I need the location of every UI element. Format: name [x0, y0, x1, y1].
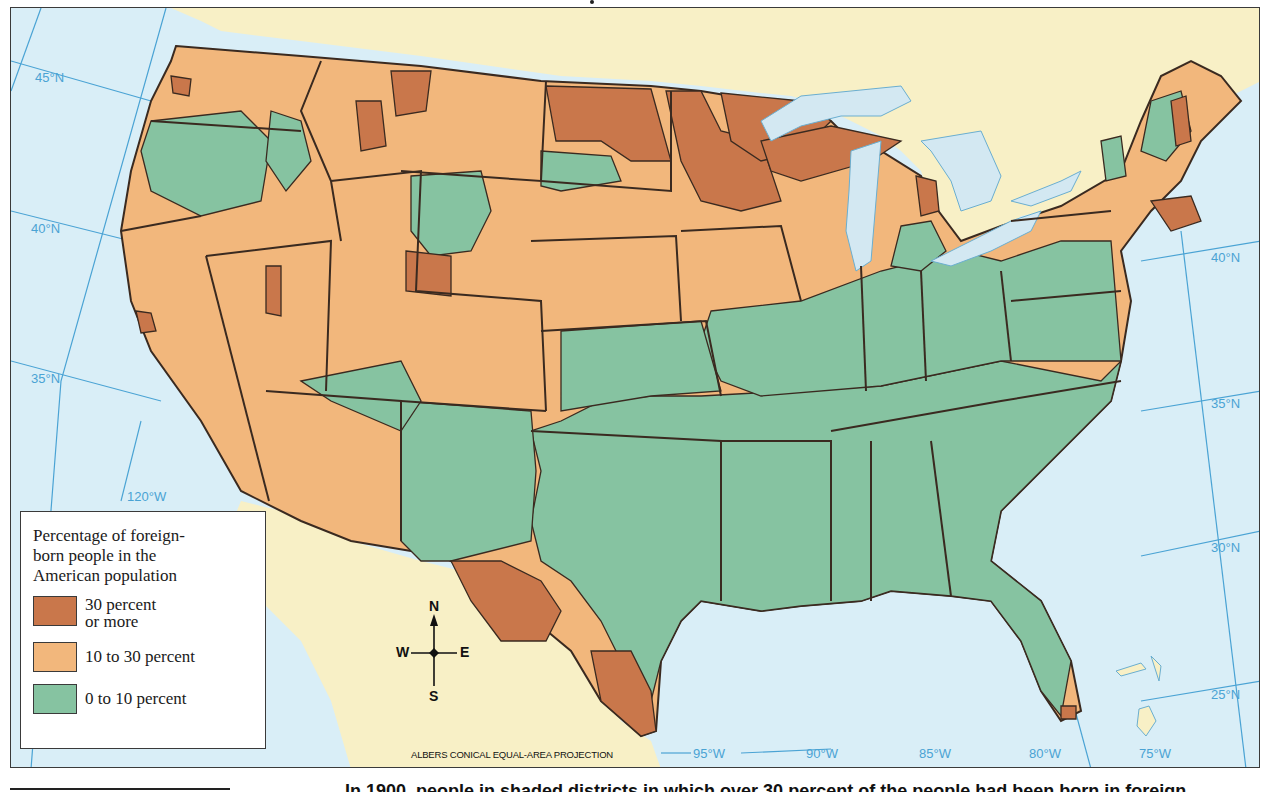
lat-label-30n-east: 30°N	[1211, 540, 1240, 555]
lon-label-75w: 75°W	[1139, 746, 1171, 761]
compass-east: E	[460, 644, 469, 660]
lon-label-90w: 90°W	[806, 746, 838, 761]
legend-label-low: 0 to 10 percent	[85, 684, 187, 707]
legend-item-high: 30 percent or more	[33, 596, 253, 630]
lat-label-25n-east: 25°N	[1211, 687, 1240, 702]
compass-rose-icon: N W E S	[396, 598, 472, 706]
projection-label: ALBERS CONICAL EQUAL-AREA PROJECTION	[411, 749, 613, 760]
legend-label-high: 30 percent or more	[85, 596, 156, 630]
lat-label-35n-east: 35°N	[1211, 396, 1240, 411]
legend-title-line: American population	[33, 566, 253, 586]
legend-item-low: 0 to 10 percent	[33, 684, 253, 714]
legend-swatch-high	[33, 596, 77, 626]
legend-title: Percentage of foreign- born people in th…	[33, 526, 253, 586]
lon-label-85w: 85°W	[919, 746, 951, 761]
bahamas	[1116, 656, 1161, 736]
legend-title-line: born people in the	[33, 546, 253, 566]
legend-title-line: Percentage of foreign-	[33, 526, 253, 546]
legend-label-mid: 10 to 30 percent	[85, 642, 195, 665]
page-top-mark	[590, 0, 594, 4]
compass-north: N	[429, 598, 439, 614]
caption-rule	[10, 788, 230, 790]
compass-south: S	[429, 688, 438, 704]
legend-swatch-mid	[33, 642, 77, 672]
legend-item-mid: 10 to 30 percent	[33, 642, 253, 672]
lon-label-120w: 120°W	[127, 489, 166, 504]
lat-label-40n-west: 40°N	[31, 221, 60, 236]
lat-label-35n-west: 35°N	[31, 371, 60, 386]
lon-label-95w: 95°W	[693, 746, 725, 761]
lon-label-80w: 80°W	[1029, 746, 1061, 761]
lat-label-45n-west: 45°N	[35, 70, 64, 85]
compass-west: W	[396, 644, 409, 660]
caption-text: In 1900, people in shaded districts in w…	[345, 778, 1186, 792]
lat-label-40n-east: 40°N	[1211, 250, 1240, 265]
map-legend: Percentage of foreign- born people in th…	[20, 511, 266, 749]
legend-swatch-low	[33, 684, 77, 714]
